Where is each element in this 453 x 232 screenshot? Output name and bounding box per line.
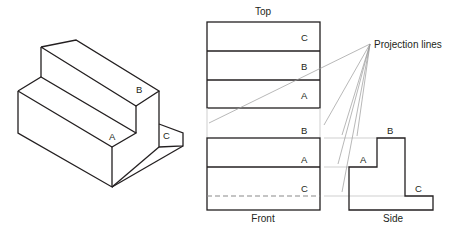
front-view: B A C Front xyxy=(207,125,320,224)
top-view: Top C B A xyxy=(207,6,320,108)
isometric-view: B A C xyxy=(18,40,183,187)
iso-label-c: C xyxy=(163,130,170,141)
top-label-b: B xyxy=(301,61,307,72)
projection-lines xyxy=(209,44,370,192)
isometric-edges xyxy=(18,40,183,187)
front-label-b: B xyxy=(301,125,307,136)
top-label-c: C xyxy=(301,32,308,43)
side-label-c: C xyxy=(415,183,422,194)
side-label-b: B xyxy=(387,125,393,136)
front-label-a: A xyxy=(301,154,308,165)
side-view: B A C Side xyxy=(349,125,433,224)
projection-lines-label: Projection lines xyxy=(374,39,442,50)
side-view-outline xyxy=(349,138,433,210)
side-view-title: Side xyxy=(383,213,403,224)
front-label-c: C xyxy=(301,183,308,194)
top-view-title: Top xyxy=(255,6,272,17)
side-label-a: A xyxy=(360,154,367,165)
iso-label-a: A xyxy=(109,131,116,142)
orthographic-projection-diagram: B A C Top C B A Projection lines B A xyxy=(0,0,453,232)
iso-label-b: B xyxy=(136,84,142,95)
top-face-b xyxy=(41,40,159,106)
front-view-title: Front xyxy=(251,213,275,224)
front-view-outline xyxy=(207,138,320,210)
top-label-a: A xyxy=(301,90,308,101)
